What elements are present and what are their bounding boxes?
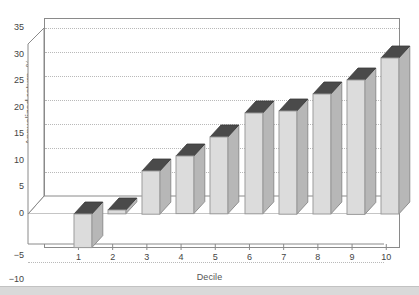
bar [347, 80, 365, 214]
bar-3d [176, 144, 209, 218]
x-axis-title: Decile [0, 272, 419, 282]
bar [245, 113, 263, 214]
y-tick-label: 25 [0, 75, 24, 85]
gridline [45, 52, 399, 53]
plot-area [44, 18, 400, 248]
bar [313, 94, 331, 214]
x-tick-label: 8 [306, 252, 330, 262]
gridline [45, 28, 399, 29]
bar-front-face [245, 113, 263, 214]
bar [142, 171, 160, 214]
x-tick-label: 3 [135, 252, 159, 262]
bar-front-face [347, 80, 365, 214]
y-tick-label: 30 [0, 49, 24, 59]
bar-front-face [142, 171, 160, 214]
bar-front-face [108, 210, 126, 214]
bar-3d [347, 68, 380, 218]
bar-3d [279, 99, 312, 218]
x-tick-label: 4 [169, 252, 193, 262]
bar-3d [142, 159, 175, 218]
x-tick-label: 5 [203, 252, 227, 262]
y-tick-label: 20 [0, 102, 24, 112]
bar-front-face [279, 111, 297, 214]
x-tick-label: 7 [272, 252, 296, 262]
bar-3d [74, 202, 107, 252]
bar-front-face [210, 137, 228, 214]
bar-front-face [176, 156, 194, 214]
page-bottom-strip [0, 286, 419, 295]
bar [74, 214, 92, 248]
bar [176, 156, 194, 214]
bar-3d [210, 125, 243, 218]
bar [108, 210, 126, 214]
y-tick-label: 5 [0, 181, 24, 191]
bar-side-face [365, 68, 376, 214]
gridline [45, 100, 399, 101]
chart-figure: Annualized return, % 35302520151050−5−10… [0, 0, 419, 295]
bar-side-face [262, 101, 273, 214]
y-tick-label: 0 [0, 208, 24, 218]
bar-3d [313, 82, 346, 218]
x-tick-label: 1 [66, 252, 90, 262]
x-tick-label: 10 [374, 252, 398, 262]
bar-front-face [381, 58, 399, 214]
x-tick-label: 2 [101, 252, 125, 262]
y-axis-title: Annualized return, % [24, 27, 34, 177]
bar-front-face [74, 214, 92, 248]
x-tick-label: 9 [340, 252, 364, 262]
bar [381, 58, 399, 214]
y-tick-label: 35 [0, 22, 24, 32]
bar-3d [381, 46, 414, 218]
bar-3d [245, 101, 278, 218]
bar-side-face [228, 125, 239, 214]
y-tick-label: 10 [0, 155, 24, 165]
bar-side-face [331, 82, 342, 214]
x-tick-label: 6 [237, 252, 261, 262]
gridline [45, 76, 399, 77]
y-tick-label: 15 [0, 128, 24, 138]
bar [279, 111, 297, 214]
bar-side-face [297, 99, 308, 214]
y-tick-label: −5 [0, 250, 24, 260]
bar-side-face [399, 46, 410, 214]
bar-front-face [313, 94, 331, 214]
bar-3d [108, 198, 141, 218]
gridline [28, 262, 384, 263]
bar [210, 137, 228, 214]
